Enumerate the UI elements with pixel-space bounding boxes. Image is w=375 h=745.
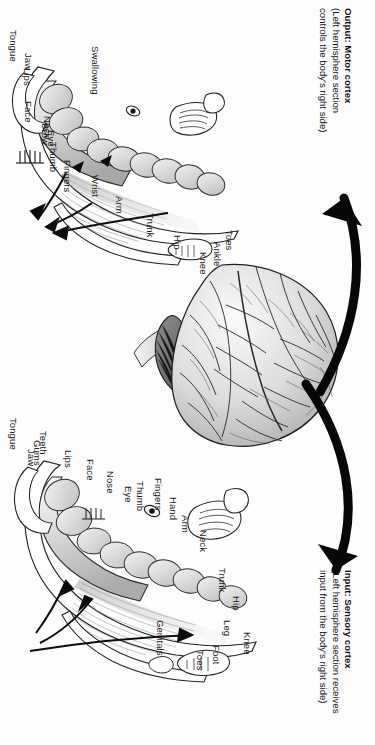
sensory-label-nose: Nose [105,471,115,494]
sensory-label-neck: Neck [198,530,208,552]
sensory-label-knee: Knee [242,632,252,655]
sensory-caption-line3: input from the body's right side) [317,570,329,713]
sensory-label-tongue: Tongue [8,418,18,450]
motor-cortex-caption: Output: Motor cortex (Left hemisphere se… [317,8,354,132]
motor-label-ankle: Ankle [212,242,222,266]
sensory-label-leg: Leg [222,620,232,636]
sensory-label-thumb: Thumb [135,481,145,511]
motor-label-fingers: Fingers [62,160,72,192]
motor-label-toes: Toes [224,230,234,250]
sensory-label-fingers: Fingers [153,478,163,510]
motor-label-swallowing: Swallowing [90,46,100,95]
motor-label-wrist: Wrist [90,175,100,197]
motor-label-knee: Knee [198,252,208,275]
sensory-label-eye: Eye [123,486,133,503]
sensory-label-hand: Hand [168,497,178,520]
sensory-caption-line2: (Left hemisphere section receives [329,570,341,713]
sensory-label-foot: Foot [211,645,221,664]
motor-caption-title: Output: Motor cortex [342,8,354,132]
sensory-label-face: Face [85,459,95,481]
motor-label-face: Face [23,101,33,123]
motor-label-tongue: Tongue [8,30,18,62]
motor-label-lips: Lips [22,68,32,86]
sensory-cortex-caption: Input: Sensory cortex (Left hemisphere s… [317,570,354,713]
diagram-canvas: Output: Motor cortex (Left hemisphere se… [0,0,375,745]
motor-label-thumb: Thumb [48,142,58,172]
motor-label-arm: Arm [114,196,124,214]
sensory-label-teeth: Teeth [38,431,48,455]
motor-caption-line2: (Left hemisphere section [329,8,341,132]
motor-label-trunk: Trunk [145,213,155,237]
sensory-label-toes: Toes [195,650,205,670]
sensory-label-lips: Lips [63,450,73,468]
motor-output-arrow [296,140,375,400]
motor-label-neck: Neck [42,116,52,138]
motor-label-hip: Hip [172,235,182,250]
sensory-label-genitals: Genitals [155,620,165,656]
motor-caption-line3: controls the body's right side) [317,8,329,132]
sensory-label-arm: Arm [180,515,190,533]
sensory-label-trunk: Trunk [217,568,227,592]
motor-homunculus-illustration [0,55,250,270]
sensory-caption-title: Input: Sensory cortex [342,570,354,713]
sensory-label-hip: Hip [231,596,241,611]
